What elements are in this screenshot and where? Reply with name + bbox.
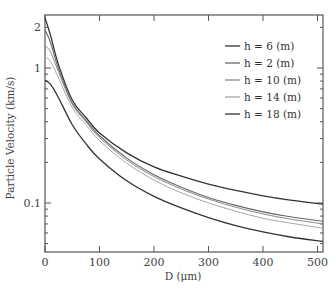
y-tick-label: 1 [34,62,41,75]
x-tick-label: 300 [198,256,219,269]
x-axis-label: D (μm) [165,270,202,282]
series-line-h-10-m [45,46,323,224]
x-tick-label: 100 [89,256,110,269]
legend-label: h = 10 (m) [244,74,301,86]
legend-label: h = 2 (m) [244,57,294,69]
legend-label: h = 6 (m) [244,40,294,52]
x-tick-label: 500 [307,256,328,269]
y-axis-label: Particle Velocity (km/s) [4,77,16,200]
legend: h = 6 (m)h = 2 (m)h = 10 (m)h = 14 (m)h … [225,40,301,120]
x-tick-label: 0 [42,256,49,269]
x-tick-label: 200 [144,256,165,269]
chart-canvas: 0.112 0100200300400500 h = 6 (m)h = 2 (m… [0,0,336,290]
y-axis: 0.112 [24,21,324,243]
y-tick-label: 0.1 [24,197,42,210]
y-tick-label: 2 [34,21,41,34]
legend-label: h = 18 (m) [244,108,301,120]
legend-label: h = 14 (m) [244,91,301,103]
x-tick-label: 400 [253,256,274,269]
